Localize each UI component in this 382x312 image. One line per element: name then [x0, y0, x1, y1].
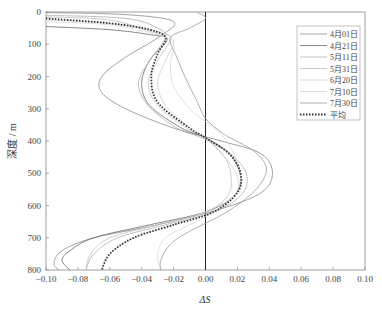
y-tick-label: 200 [28, 72, 42, 82]
x-tick-label: 0.00 [198, 274, 214, 284]
y-axis-title: 深度 / m [6, 123, 18, 159]
y-tick-label: 600 [28, 201, 42, 211]
series-line [46, 13, 273, 270]
x-tick-label: 0.08 [325, 274, 341, 284]
y-tick-label: 700 [28, 233, 42, 243]
legend-label: 5月31日 [330, 65, 358, 74]
series-line [46, 17, 231, 270]
depth-salinity-chart: −0.10−0.08−0.06−0.04−0.020.000.020.040.0… [0, 0, 382, 312]
x-tick-label: −0.06 [99, 274, 120, 284]
x-tick-label: −0.10 [36, 274, 57, 284]
series-line [46, 15, 247, 270]
legend-label: 4月01日 [330, 30, 358, 39]
series-line [46, 20, 238, 270]
x-tick-label: −0.04 [131, 274, 152, 284]
y-tick-label: 100 [28, 39, 42, 49]
y-tick-label: 400 [28, 136, 42, 146]
x-axis-title: ΔS [199, 294, 211, 305]
x-tick-label: 0.02 [230, 274, 246, 284]
legend: 4月01日4月21日5月11日5月31日6月20日7月10日7月30日平均 [297, 26, 360, 120]
legend-label: 平均 [330, 110, 346, 120]
y-tick-label: 0 [37, 7, 42, 17]
x-tick-label: −0.08 [67, 274, 88, 284]
legend-label: 4月21日 [330, 42, 358, 51]
y-tick-label: 300 [28, 104, 42, 114]
legend-label: 6月20日 [330, 76, 358, 85]
legend-label: 7月30日 [330, 99, 358, 108]
x-tick-label: 0.06 [293, 274, 309, 284]
legend-label: 5月11日 [330, 53, 358, 62]
series-line [46, 18, 241, 270]
series-line [46, 27, 241, 271]
x-tick-label: −0.02 [163, 274, 184, 284]
series-lines [46, 13, 273, 270]
legend-label: 7月10日 [330, 88, 358, 97]
y-tick-label: 800 [28, 265, 42, 275]
x-tick-label: 0.10 [357, 274, 373, 284]
y-tick-label: 500 [28, 168, 42, 178]
x-tick-label: 0.04 [261, 274, 277, 284]
series-line [46, 22, 241, 270]
